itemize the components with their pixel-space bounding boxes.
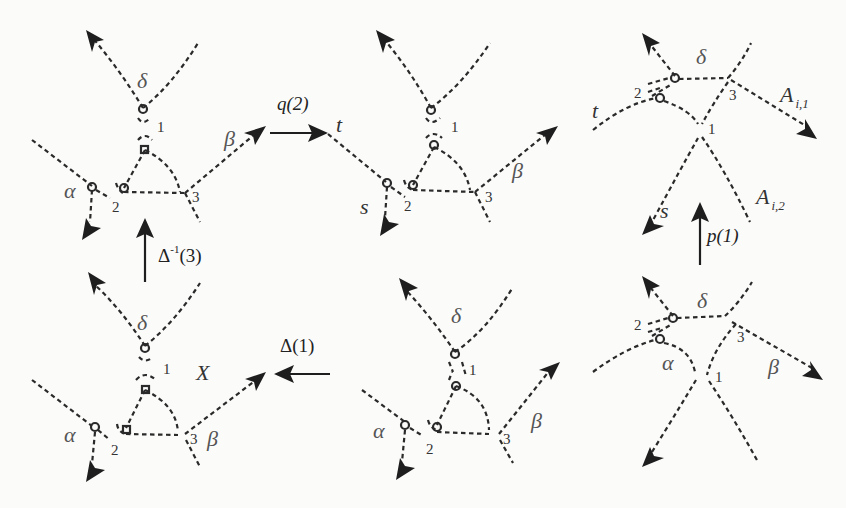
label-node-1: 1 xyxy=(451,120,459,135)
label-delta: δ xyxy=(451,305,461,327)
arrowhead-icon xyxy=(82,218,101,240)
label-beta: β xyxy=(512,160,523,182)
label-node-3: 3 xyxy=(190,432,198,447)
label-X: X xyxy=(196,362,209,384)
diagram-svg xyxy=(0,0,846,508)
label-op-delta-inverse-3: Δ-1(3) xyxy=(158,244,202,265)
label-op-delta-1: Δ(1) xyxy=(280,336,314,355)
label-node-3: 3 xyxy=(729,88,737,103)
label-alpha: α xyxy=(373,420,385,442)
label-t: t xyxy=(592,100,598,122)
label-delta: δ xyxy=(137,70,147,92)
label-s: s xyxy=(660,200,669,222)
label-op-q2: q(2) xyxy=(277,94,309,113)
operation-arrow-delta-1 xyxy=(274,365,330,383)
label-delta: δ xyxy=(697,290,707,312)
graph-bottom-right xyxy=(593,276,823,467)
label-node-3: 3 xyxy=(503,432,511,447)
label-node-2: 2 xyxy=(634,86,642,101)
label-node-2: 2 xyxy=(111,443,119,458)
diagram-canvas: δ 1 α 2 3 β q(2) t 1 s 2 3 β δ 2 3 1 t s… xyxy=(0,0,846,508)
operation-arrow-delta-inverse-3 xyxy=(136,218,154,282)
label-alpha: α xyxy=(662,352,674,374)
graph-bottom-left xyxy=(32,272,266,482)
label-node-3: 3 xyxy=(737,330,745,345)
label-beta: β xyxy=(207,428,218,450)
label-A-i1: Ai,1 xyxy=(780,84,809,110)
label-beta: β xyxy=(531,410,542,432)
arrowhead-icon xyxy=(244,126,266,145)
label-node-2: 2 xyxy=(426,442,434,457)
label-node-1: 1 xyxy=(715,370,723,385)
label-node-1: 1 xyxy=(157,120,165,135)
label-node-2: 2 xyxy=(634,318,642,333)
label-beta: β xyxy=(224,128,235,150)
label-node-1: 1 xyxy=(708,122,716,137)
label-delta: δ xyxy=(696,46,706,68)
label-node-3: 3 xyxy=(485,190,493,205)
label-delta: δ xyxy=(137,312,147,334)
label-alpha: α xyxy=(64,180,76,202)
label-t: t xyxy=(336,114,342,136)
label-node-3: 3 xyxy=(192,190,200,205)
vertex xyxy=(88,183,96,191)
operation-arrow-q2 xyxy=(270,124,328,142)
label-s: s xyxy=(360,196,369,218)
label-node-2: 2 xyxy=(112,200,120,215)
label-beta: β xyxy=(768,356,779,378)
vertex xyxy=(141,146,148,153)
label-node-1: 1 xyxy=(163,362,171,377)
label-node-2: 2 xyxy=(404,199,412,214)
label-A-i2: Ai,2 xyxy=(756,186,785,212)
label-alpha: α xyxy=(64,424,76,446)
label-op-p1: p(1) xyxy=(707,226,739,245)
label-node-1: 1 xyxy=(469,363,477,378)
